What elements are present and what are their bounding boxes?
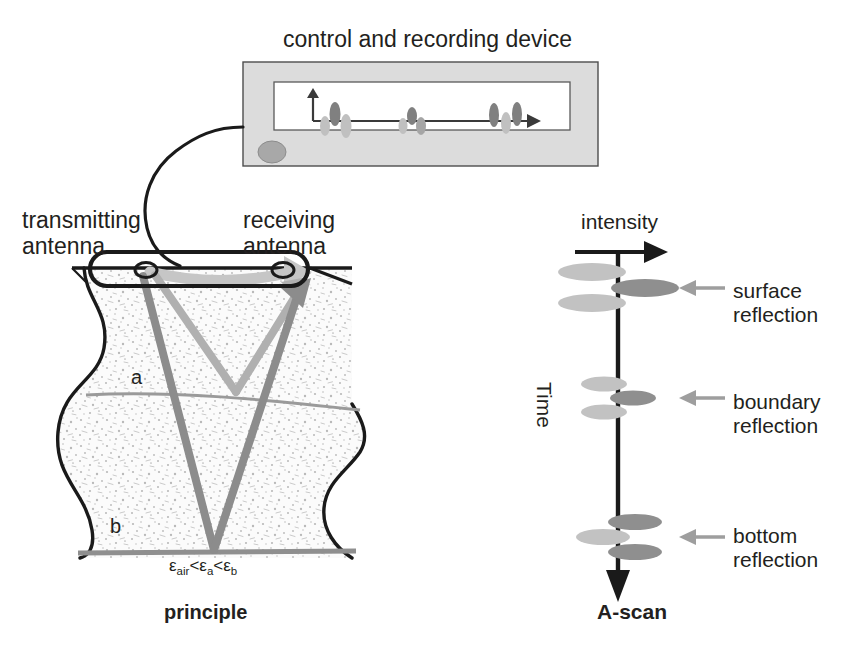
intensity-axis-label: intensity [581, 210, 658, 234]
ascan-bottom-wavelet [576, 514, 662, 560]
ascan-boundary-wavelet [581, 377, 656, 420]
layer-a-label: a [131, 366, 142, 388]
device-antenna-cable [145, 127, 243, 266]
ascan-caption: A-scan [597, 600, 667, 624]
ground-fill [58, 268, 365, 558]
control-recording-device[interactable] [243, 62, 598, 166]
annotation-pointer-surface [679, 280, 725, 296]
boundary-reflection-annotation: boundary reflection [733, 390, 821, 437]
epsilon-b-sub: b [231, 565, 237, 577]
annotation-pointer-bottom [679, 529, 725, 545]
surface-reflection-annotation: surface reflection [733, 279, 818, 326]
receiving-antenna-label: receiving antenna [243, 208, 335, 260]
ascan-surface-wavelet [558, 263, 679, 312]
epsilon-b: ε [223, 556, 231, 575]
ascan-intensity-arrowhead [644, 241, 668, 263]
relation-op-1: < [189, 556, 199, 575]
transmitting-antenna-label: transmitting antenna [22, 208, 141, 260]
device-title: control and recording device [283, 27, 572, 53]
bottom-reflection-annotation: bottom reflection [733, 524, 818, 571]
figure-canvas [0, 0, 845, 653]
epsilon-air-sub: air [177, 565, 190, 577]
epsilon-air: ε [169, 556, 177, 575]
gpr-principle-figure: control and recording device transmittin… [0, 0, 845, 653]
ascan-plot [558, 241, 725, 602]
principle-caption: principle [164, 601, 247, 623]
relation-op-2: < [213, 556, 223, 575]
ascan-time-arrowhead [606, 570, 630, 602]
epsilon-a: ε [199, 556, 207, 575]
annotation-pointer-boundary [679, 390, 725, 406]
control-knob[interactable] [258, 141, 286, 163]
time-axis-label: Time [532, 382, 556, 428]
ground-block [58, 268, 365, 558]
layer-b-label: b [110, 515, 121, 537]
permittivity-relation: εair<εa<εb [169, 556, 237, 578]
